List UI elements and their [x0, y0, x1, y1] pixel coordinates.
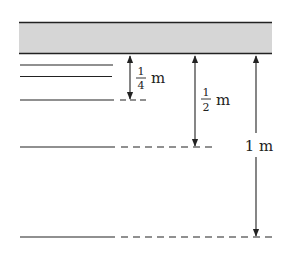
- full-label: 1 m: [245, 137, 274, 155]
- half-denominator: 2: [203, 101, 210, 114]
- quarter-unit: m: [151, 69, 165, 87]
- ceiling-bar: [19, 22, 272, 54]
- half-numerator: 1: [203, 86, 210, 99]
- wave-depth-diagram: 1 4 m 1 2 m 1 m: [0, 0, 291, 262]
- quarter-denominator: 4: [138, 79, 145, 92]
- quarter-numerator: 1: [138, 65, 145, 78]
- half-unit: m: [216, 91, 230, 109]
